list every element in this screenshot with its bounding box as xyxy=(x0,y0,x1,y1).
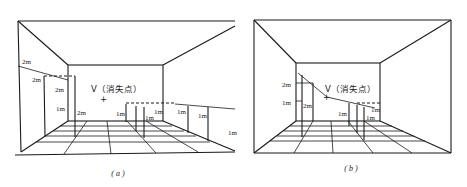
label-2m: 2m xyxy=(77,109,87,117)
label-1m: 1m xyxy=(282,99,292,107)
left-floor-diagonal xyxy=(254,121,296,153)
label-1m: 1m xyxy=(371,106,381,114)
label-1m: 1m xyxy=(198,112,208,120)
label-2m: 2m xyxy=(32,76,42,84)
label-2m: 2m xyxy=(303,102,313,110)
label-1m: 1m xyxy=(366,114,376,122)
label-1m: 1m xyxy=(116,110,126,118)
left-wall-front-edge xyxy=(18,21,21,152)
label-2m: 2m xyxy=(55,86,65,94)
caption-a: ( a ) xyxy=(111,169,125,178)
left-post xyxy=(44,76,45,136)
left-ceiling-diagonal xyxy=(254,20,296,63)
label-1m: 1m xyxy=(228,129,238,137)
right-ceiling-diagonal xyxy=(163,26,235,65)
vanishing-point-label: V（消失点） xyxy=(325,84,376,94)
label-2m: 2m xyxy=(22,58,32,66)
figure-b: 2m 1m 2m 1m 1m 1m V（消失点） + ( b ) xyxy=(254,20,451,173)
right-ceiling-diagonal xyxy=(380,20,451,63)
label-1m: 1m xyxy=(154,108,164,116)
label-1m: 1m xyxy=(56,105,66,113)
label-2m: 2m xyxy=(282,81,292,89)
figure-a: 2m 2m 2m 1m 2m 1m 1m 1m 1m 1m 1m V（消失点） … xyxy=(15,21,238,178)
floor-front-edge xyxy=(15,152,235,155)
height-line-2m xyxy=(18,66,68,80)
vanishing-point-label: V（消失点） xyxy=(91,84,142,94)
vanishing-point-marker: + xyxy=(100,94,107,104)
perspective-diagram: 2m 2m 2m 1m 2m 1m 1m 1m 1m 1m 1m V（消失点） … xyxy=(0,0,467,187)
label-1m: 1m xyxy=(177,108,187,116)
label-1m: 1m xyxy=(338,110,348,118)
caption-b: ( b ) xyxy=(344,164,358,173)
vanishing-point-marker: + xyxy=(323,92,330,102)
